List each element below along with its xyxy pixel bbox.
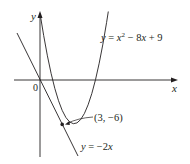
x-axis-label: x	[171, 82, 177, 94]
parabola-label: y = x2 − 8x + 9	[100, 31, 163, 43]
point-label: (3, −6)	[94, 112, 123, 124]
parabola-curve	[40, 12, 108, 124]
graph-canvas: y x 0 y = x2 − 8x + 9 (3, −6) y = −2x	[0, 0, 190, 164]
origin-label: 0	[33, 82, 38, 93]
tangent-line	[17, 33, 78, 156]
line-label: y = −2x	[80, 141, 113, 152]
pointer-arrow-icon	[65, 121, 70, 125]
y-axis-label: y	[30, 10, 36, 22]
tangent-point	[60, 123, 64, 127]
